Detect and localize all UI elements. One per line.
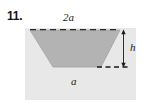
top-width-label: 2a [63, 12, 74, 23]
height-label: h [130, 42, 136, 53]
bottom-width-label: a [71, 76, 77, 87]
figure-container: 11. 2a a h [0, 0, 149, 110]
trapezoid-cross-section-diagram [0, 0, 149, 110]
